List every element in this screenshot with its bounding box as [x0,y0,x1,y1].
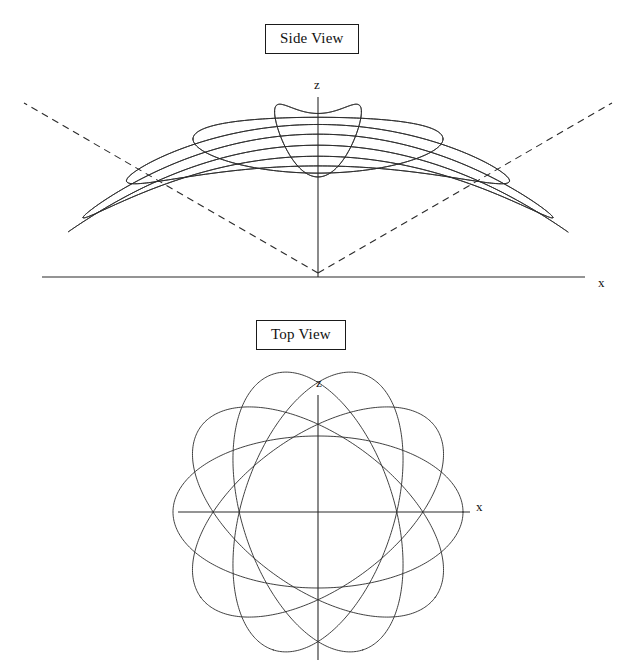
side-view-cone-left [24,103,318,273]
side-view-plot [0,0,631,310]
top-view-axes [178,395,470,660]
side-view-x-axis-label: x [598,276,605,289]
top-view-z-axis-label: z [316,376,322,389]
top-view-caption: Top View [256,320,346,350]
orbit-figure: Side View z x Top View z x [0,0,631,668]
side-view-z-axis-label: z [314,78,320,91]
side-view-axes [42,97,585,277]
side-view-cone-right [318,103,612,273]
top-view-x-axis-label: x [476,500,483,513]
top-view-plot [0,348,631,668]
